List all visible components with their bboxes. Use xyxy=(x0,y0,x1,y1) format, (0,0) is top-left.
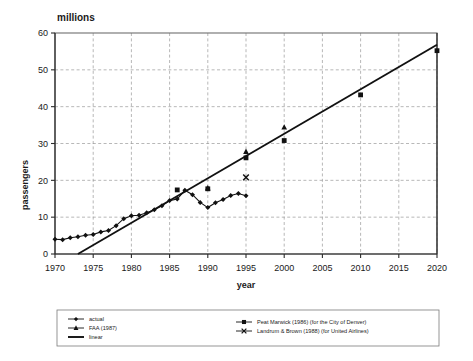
legend-label: Landrum & Brown (1988) (for United Airli… xyxy=(257,328,369,334)
y-tick-label: 30 xyxy=(38,139,48,149)
y-tick-label: 10 xyxy=(38,212,48,222)
x-tick-label: 1975 xyxy=(83,263,103,273)
legend-label: linear xyxy=(89,334,103,340)
chart-legend: actualFAA (1987)linearPeat Marwick (1986… xyxy=(57,310,439,346)
y-tick-label: 50 xyxy=(38,65,48,75)
y-tick-label: 0 xyxy=(43,249,48,259)
x-tick-label: 1985 xyxy=(160,263,180,273)
x-tick-label: 2020 xyxy=(427,263,447,273)
data-marker xyxy=(435,48,440,53)
y-unit-label: millions xyxy=(57,12,95,23)
legend-label: Peat Marwick (1986) (for the City of Den… xyxy=(257,319,367,325)
x-tick-label: 1980 xyxy=(121,263,141,273)
x-tick-label: 1970 xyxy=(45,263,65,273)
data-marker xyxy=(282,138,287,143)
data-marker xyxy=(244,155,249,160)
x-tick-label: 2005 xyxy=(312,263,332,273)
x-tick-label: 1995 xyxy=(236,263,256,273)
data-marker xyxy=(242,320,246,324)
data-marker xyxy=(175,188,180,193)
data-marker xyxy=(205,186,210,191)
y-tick-label: 20 xyxy=(38,176,48,186)
data-marker xyxy=(358,92,363,97)
chart-container: millions passengers year 0102030405060 1… xyxy=(0,0,473,361)
legend-label: actual xyxy=(89,316,104,322)
y-tick-label: 60 xyxy=(38,28,48,38)
x-axis-title: year xyxy=(237,280,256,290)
legend-label: FAA (1987) xyxy=(89,325,117,331)
y-tick-label: 40 xyxy=(38,102,48,112)
y-axis-title: passengers xyxy=(20,160,30,210)
x-tick-label: 2000 xyxy=(274,263,294,273)
x-tick-label: 2010 xyxy=(351,263,371,273)
x-tick-label: 2015 xyxy=(389,263,409,273)
x-tick-label: 1990 xyxy=(198,263,218,273)
